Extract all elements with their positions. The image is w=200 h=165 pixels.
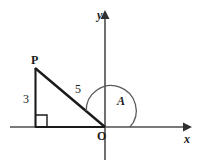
arrow-right-icon xyxy=(183,123,192,132)
vertex-label-p: P xyxy=(31,54,38,66)
side-length-label-3: 3 xyxy=(23,93,29,105)
x-axis-label: x xyxy=(184,133,190,145)
y-axis-label: y xyxy=(97,9,102,21)
hypotenuse-length-label-5: 5 xyxy=(75,83,81,95)
right-angle-marker-icon xyxy=(35,115,47,127)
angle-arc-icon xyxy=(86,86,136,127)
angle-label-a: A xyxy=(117,95,125,107)
geometry-figure: P 3 5 A O y x xyxy=(0,0,200,165)
origin-label-o: O xyxy=(97,130,106,142)
triangle-hypotenuse xyxy=(35,68,105,127)
